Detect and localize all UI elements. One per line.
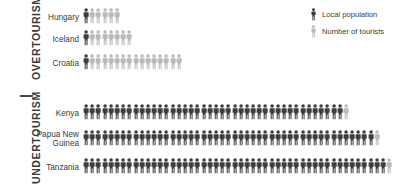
row-figures [83, 30, 133, 46]
row-figures [83, 54, 182, 70]
person-icon [386, 158, 392, 174]
person-icon [310, 25, 317, 38]
row-label: Tanzania [9, 163, 79, 172]
row-figures [83, 8, 120, 24]
person-icon [310, 8, 317, 21]
row-label: Croatia [9, 59, 79, 68]
row-label: Iceland [9, 35, 79, 44]
person-icon [343, 104, 349, 120]
infographic-canvas: OVERTOURISM UNDERTOURISM HungaryIcelandC… [0, 0, 415, 189]
row-label: Papua New Guinea [9, 130, 79, 148]
section-divider [20, 95, 33, 97]
row-figures [83, 158, 392, 174]
legend-item-tourist: Number of tourists [310, 25, 384, 38]
person-icon [114, 8, 120, 24]
person-icon [374, 130, 380, 146]
person-icon [310, 8, 317, 21]
row-label: Hungary [9, 13, 79, 22]
legend-label-tourist: Number of tourists [322, 27, 384, 36]
row-figures [83, 104, 349, 120]
person-icon [176, 54, 182, 70]
row-label: Kenya [9, 109, 79, 118]
person-icon [126, 30, 132, 46]
legend-item-local: Local population [310, 8, 384, 21]
row-figures [83, 130, 380, 146]
person-icon [310, 25, 317, 38]
legend: Local population Number of tourists [310, 8, 384, 42]
legend-label-local: Local population [322, 10, 377, 19]
